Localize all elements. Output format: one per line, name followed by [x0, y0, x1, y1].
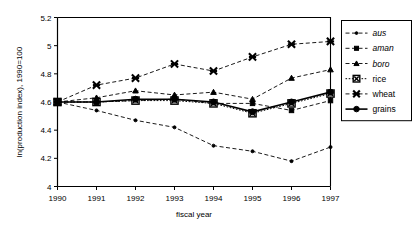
legend-label-grains: grains	[373, 104, 396, 114]
chart-container: 44.24.44.64.855.2 1990199119921993199419…	[0, 0, 414, 234]
x-axis-title: fiscal year	[176, 210, 212, 219]
y-tick-label: 5	[47, 42, 52, 51]
legend-label-aman: aman	[373, 43, 395, 53]
x-tick-label: 1993	[166, 194, 184, 203]
legend-label-rice: rice	[373, 74, 387, 84]
y-tick-label: 4.4	[40, 126, 52, 135]
x-tick-label: 1996	[283, 194, 301, 203]
x-tick-label: 1990	[49, 194, 67, 203]
y-tick-label: 4.8	[40, 70, 52, 79]
y-tick-label: 4	[47, 183, 52, 192]
y-axis-title: ln(production index), 1990=100	[15, 46, 24, 157]
x-tick-label: 1992	[127, 194, 145, 203]
x-axis: 19901991199219931994199519961997	[49, 187, 340, 203]
legend: ausamanbororicewheatgrains	[342, 21, 412, 121]
x-tick-label: 1991	[88, 194, 106, 203]
production-index-line-chart: 44.24.44.64.855.2 1990199119921993199419…	[0, 0, 414, 234]
x-tick-label: 1995	[244, 194, 262, 203]
legend-label-boro: boro	[373, 59, 390, 69]
y-tick-label: 4.6	[40, 98, 52, 107]
x-tick-label: 1994	[205, 194, 223, 203]
y-tick-label: 4.2	[40, 154, 52, 163]
x-tick-label: 1997	[322, 194, 340, 203]
y-tick-label: 5.2	[40, 14, 52, 23]
legend-label-aus: aus	[373, 28, 387, 38]
legend-label-wheat: wheat	[372, 89, 396, 99]
series-layer	[54, 38, 334, 163]
